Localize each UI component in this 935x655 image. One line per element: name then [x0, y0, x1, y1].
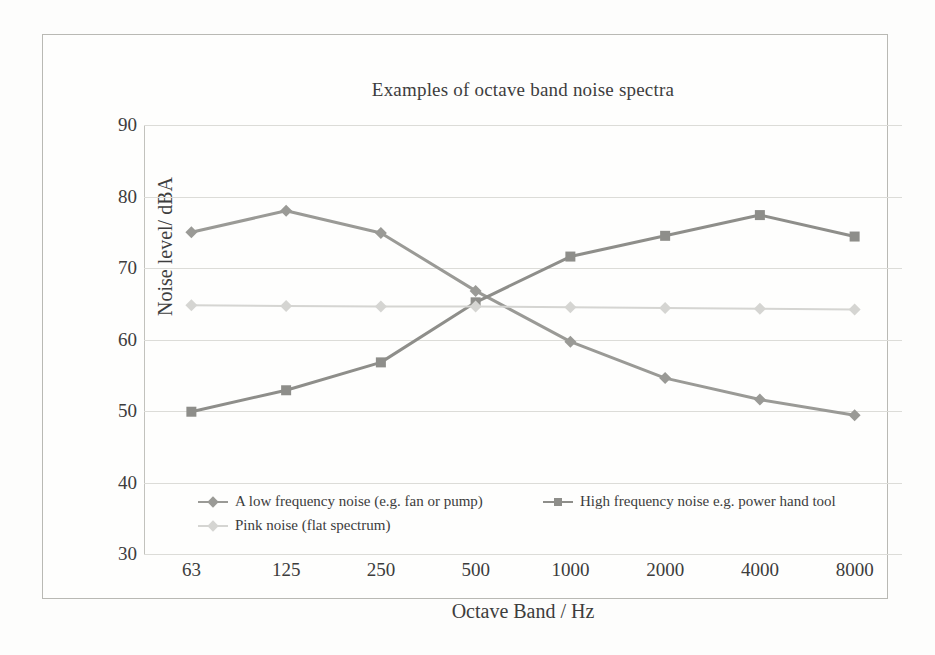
- x-axis-tick-label: 4000: [741, 559, 779, 581]
- legend-label: High frequency noise e.g. power hand too…: [580, 493, 836, 510]
- data-point-square-icon: [565, 252, 575, 262]
- chart-legend: A low frequency noise (e.g. fan or pump)…: [198, 493, 898, 541]
- y-axis-tick-label: 50: [118, 400, 137, 422]
- legend-entry-2[interactable]: Pink noise (flat spectrum): [198, 517, 390, 534]
- data-point-square-icon: [850, 232, 860, 242]
- series-layer: [144, 125, 902, 554]
- x-axis-tick-label: 63: [182, 559, 201, 581]
- chart-title: Examples of octave band noise spectra: [144, 79, 902, 101]
- plot-area: [144, 125, 902, 554]
- gridline: [144, 554, 902, 555]
- x-axis-title: Octave Band / Hz: [144, 600, 902, 623]
- data-point-diamond-icon: [280, 205, 292, 217]
- y-axis-tick-label: 30: [118, 543, 137, 565]
- series-2: [185, 299, 860, 315]
- data-point-square-icon: [186, 407, 196, 417]
- x-axis-tick-label: 250: [367, 559, 396, 581]
- chart-frame: Examples of octave band noise spectra No…: [42, 34, 888, 599]
- data-point-diamond-icon: [849, 303, 861, 315]
- legend-marker: [207, 496, 218, 507]
- series-line: [191, 211, 854, 415]
- y-axis-tick-label: 60: [118, 329, 137, 351]
- legend-label: Pink noise (flat spectrum): [235, 517, 390, 534]
- series-line: [191, 215, 854, 412]
- legend-row: Pink noise (flat spectrum): [198, 517, 898, 541]
- x-axis-tick-label: 125: [272, 559, 301, 581]
- data-point-diamond-icon: [185, 226, 197, 238]
- data-point-diamond-icon: [754, 394, 766, 406]
- legend-label: A low frequency noise (e.g. fan or pump): [235, 493, 483, 510]
- y-axis-tick-labels: 30405060708090: [95, 125, 137, 554]
- data-point-diamond-icon: [564, 301, 576, 313]
- x-axis-tick-label: 1000: [551, 559, 589, 581]
- x-axis-tick-labels: 631252505001000200040008000: [144, 559, 902, 593]
- legend-marker: [207, 520, 218, 531]
- y-axis-tick-label: 40: [118, 472, 137, 494]
- data-point-square-icon: [281, 385, 291, 395]
- legend-marker-square-icon: [543, 496, 573, 508]
- legend-marker-diamond-icon: [198, 520, 228, 532]
- data-point-square-icon: [660, 231, 670, 241]
- legend-marker: [554, 498, 562, 506]
- x-axis-tick-label: 500: [461, 559, 490, 581]
- y-axis-tick-label: 70: [118, 257, 137, 279]
- data-point-diamond-icon: [659, 372, 671, 384]
- x-axis-tick-label: 8000: [836, 559, 874, 581]
- legend-row: A low frequency noise (e.g. fan or pump)…: [198, 493, 898, 517]
- data-point-diamond-icon: [754, 303, 766, 315]
- data-point-diamond-icon: [280, 300, 292, 312]
- data-point-diamond-icon: [849, 409, 861, 421]
- data-point-diamond-icon: [564, 336, 576, 348]
- legend-marker-diamond-icon: [198, 496, 228, 508]
- data-point-diamond-icon: [375, 301, 387, 313]
- y-axis-tick-label: 90: [118, 114, 137, 136]
- y-axis-tick-label: 80: [118, 186, 137, 208]
- data-point-diamond-icon: [659, 302, 671, 314]
- data-point-diamond-icon: [185, 299, 197, 311]
- legend-entry-1[interactable]: High frequency noise e.g. power hand too…: [543, 493, 836, 510]
- data-point-square-icon: [755, 210, 765, 220]
- legend-entry-0[interactable]: A low frequency noise (e.g. fan or pump): [198, 493, 483, 510]
- x-axis-tick-label: 2000: [646, 559, 684, 581]
- data-point-square-icon: [376, 357, 386, 367]
